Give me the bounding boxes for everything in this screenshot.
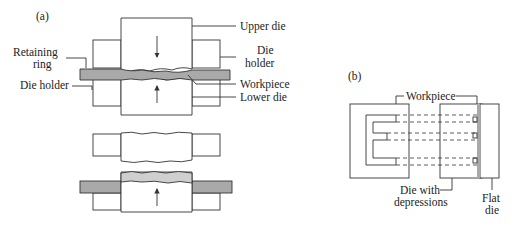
depression-3 [473,158,477,163]
coining-process-diagram: (a) Upper die Die holder Retaining ring … [0,0,513,227]
label-flat-die-2: die [485,204,499,216]
label-upper-die: Upper die [240,20,286,33]
label-lower-die: Lower die [240,91,287,103]
label-die-holder-left: Die holder [20,79,69,91]
label-workpiece-a: Workpiece [240,78,290,91]
label-die-holder-right-1: Die [257,44,274,56]
die-holder-upper-right [192,40,220,68]
panel-b-label: (b) [348,70,362,83]
panel-a-bottom-assembly [80,132,232,212]
die-holder-lower-left-after [93,193,121,210]
label-flat-die-1: Flat [482,192,501,204]
depression-2 [473,133,477,138]
die-holder-lower-right [192,78,220,106]
panel-a-label: (a) [36,10,49,23]
panel-b-assembly [350,104,499,178]
label-die-with-depressions-2: depressions [394,196,448,209]
die-holder-upper-left [93,40,121,68]
workpiece-strip [80,69,230,80]
depression-1 [473,117,477,122]
panel-a-top-assembly [80,18,230,115]
retaining-ring-left-after [80,181,121,193]
workpiece-strip-b [477,104,480,178]
lower-die [121,77,192,115]
label-die-with-depressions-1: Die with [400,184,440,196]
die-holder-lower-right-after [192,193,220,210]
label-die-holder-right-2: holder [245,57,275,69]
label-workpiece-b: Workpiece [406,90,456,103]
coined-workpiece [121,172,192,184]
flat-die [480,104,499,178]
upper-die-after [121,132,192,162]
die-holder-upper-left-after [93,134,121,156]
die-holder-lower-left [93,78,121,106]
upper-die [121,18,192,72]
label-retaining-ring-2: ring [33,58,52,71]
retaining-ring-right-after [192,181,232,193]
die-holder-upper-right-after [192,134,220,156]
